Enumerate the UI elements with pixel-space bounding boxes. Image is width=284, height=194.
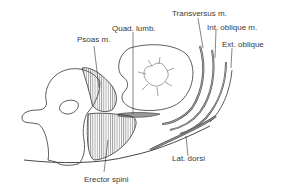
label-psoas: Psoas m. xyxy=(77,36,110,44)
label-lat-dorsi: Lat. dorsi xyxy=(172,155,205,163)
vertebral-foramen xyxy=(59,100,78,114)
label-int-oblique: Int. oblique m. xyxy=(207,24,257,32)
label-quad-lumb: Quad. lumb. xyxy=(112,25,156,33)
anatomy-diagram: Psoas m. Quad. lumb. Transversus m. Int.… xyxy=(0,0,284,194)
label-ext-oblique: Ext. oblique xyxy=(222,41,264,49)
erector-spinae xyxy=(87,113,136,160)
abdominal-wall-layers xyxy=(162,46,232,134)
renal-calyces xyxy=(138,57,174,96)
kidney-outline xyxy=(119,45,193,111)
psoas-muscle xyxy=(82,68,117,112)
label-erector-spini: Erector spini xyxy=(84,176,128,184)
label-transversus: Transversus m. xyxy=(172,10,227,18)
